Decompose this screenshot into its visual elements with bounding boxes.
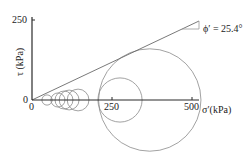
x-tick-label-500: 500 xyxy=(184,101,199,112)
y-axis-label: τ (kPa) xyxy=(14,48,26,76)
mohr-circle-diagram: ϕ′ = 25.4° 250 0 0 250 500 σ′(kPa) τ (kP… xyxy=(0,0,249,155)
x-tick-label-250: 250 xyxy=(104,101,119,112)
y-tick-label-250: 250 xyxy=(12,14,27,25)
failure-envelope-line xyxy=(32,21,199,100)
friction-angle-label: ϕ′ = 25.4° xyxy=(203,23,243,34)
x-tick-label-0: 0 xyxy=(29,101,34,112)
y-tick-label-0: 0 xyxy=(23,94,28,105)
x-axis-label: σ′(kPa) xyxy=(202,104,231,116)
